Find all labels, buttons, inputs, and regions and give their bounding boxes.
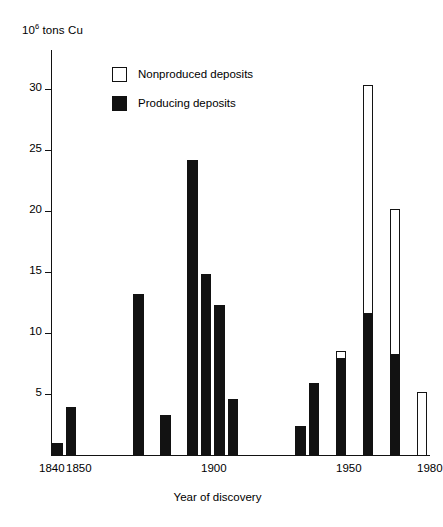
y-tick-5 bbox=[45, 394, 52, 395]
y-tick-label-10: 10 bbox=[12, 325, 42, 337]
bar-nonproduced-1975 bbox=[417, 392, 428, 457]
bar-producing-1870 bbox=[133, 294, 144, 455]
bar-nonproduced-1965 bbox=[390, 209, 401, 355]
bar-producing-1955 bbox=[363, 312, 374, 455]
x-axis-title: Year of discovery bbox=[0, 491, 435, 503]
bar-producing-1945 bbox=[336, 357, 347, 455]
y-tick-label-15: 15 bbox=[12, 264, 42, 276]
bar-producing-1900 bbox=[214, 305, 225, 455]
y-tick-label-25: 25 bbox=[12, 142, 42, 154]
y-axis-line bbox=[51, 50, 52, 456]
bar-producing-1895 bbox=[201, 274, 212, 455]
bar-nonproduced-1955 bbox=[363, 85, 374, 313]
y-tick-15 bbox=[45, 272, 52, 273]
legend-label-producing: Producing deposits bbox=[138, 97, 236, 109]
bar-producing-1890 bbox=[187, 160, 198, 455]
y-tick-25 bbox=[45, 150, 52, 151]
bar-producing-1935 bbox=[309, 383, 320, 455]
bar-producing-1840 bbox=[52, 443, 63, 455]
legend-label-nonproduced: Nonproduced deposits bbox=[138, 68, 253, 80]
bar-producing-1880 bbox=[160, 415, 171, 455]
bar-nonproduced-1945 bbox=[336, 351, 347, 358]
bar-producing-1905 bbox=[228, 399, 239, 455]
x-tick-label-1900: 1900 bbox=[201, 462, 227, 474]
y-tick-10 bbox=[45, 333, 52, 334]
y-tick-label-30: 30 bbox=[12, 81, 42, 93]
y-tick-label-5: 5 bbox=[12, 386, 42, 398]
y-axis-unit-label: 106 tons Cu bbox=[22, 24, 83, 36]
legend-item-nonproduced: Nonproduced deposits bbox=[112, 63, 253, 85]
y-tick-20 bbox=[45, 211, 52, 212]
y-tick-label-20: 20 bbox=[12, 203, 42, 215]
legend-swatch-nonproduced-icon bbox=[112, 67, 127, 82]
bar-producing-1845 bbox=[66, 407, 77, 455]
x-tick-label-1840: 1840 bbox=[39, 462, 65, 474]
chart-legend: Nonproduced deposits Producing deposits bbox=[112, 63, 253, 121]
x-tick-label-1980: 1980 bbox=[417, 462, 443, 474]
y-tick-30 bbox=[45, 89, 52, 90]
y-axis-unit-rest: tons Cu bbox=[39, 24, 83, 36]
legend-item-producing: Producing deposits bbox=[112, 92, 253, 114]
bar-producing-1930 bbox=[295, 426, 306, 455]
x-tick-label-1950: 1950 bbox=[336, 462, 362, 474]
x-tick-label-1850: 1850 bbox=[66, 462, 92, 474]
x-axis-line bbox=[51, 455, 430, 456]
y-axis-unit-base: 10 bbox=[22, 24, 35, 36]
bar-producing-1965 bbox=[390, 354, 401, 455]
legend-swatch-producing-icon bbox=[112, 96, 127, 111]
